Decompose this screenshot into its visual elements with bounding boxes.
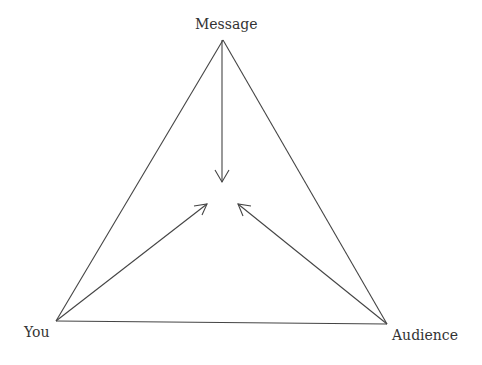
communication-triangle-diagram: [0, 0, 482, 365]
edge-message-you: [56, 40, 223, 321]
arrow-message-to-center: [215, 40, 229, 182]
node-label-you: You: [24, 324, 49, 340]
arrow-audience-to-center: [238, 204, 387, 324]
edge-you-audience: [56, 321, 387, 324]
node-label-audience: Audience: [392, 327, 458, 343]
arrow-you-to-center: [56, 204, 207, 321]
edge-message-audience: [223, 40, 387, 324]
node-label-message: Message: [195, 16, 258, 32]
